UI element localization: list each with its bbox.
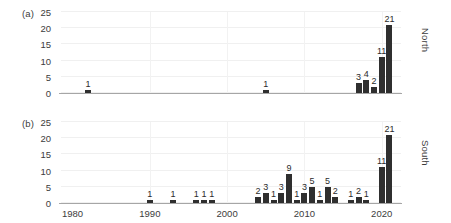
y-axis-tick-label: 25 [33,117,51,128]
gridline-horizontal [61,60,401,61]
bar [294,200,300,203]
gridline-horizontal [61,27,401,28]
panel-b-side-label: South [420,140,431,166]
panel-a-north: (a) 2520151050 113421121 North [0,0,451,112]
gridline-horizontal [61,11,401,12]
bar-value-label: 5 [325,176,330,186]
figure-bar-chart-north-south: (a) 2520151050 113421121 North (b) 25201… [0,0,451,223]
bar [356,197,362,203]
y-axis-tick-label: 20 [33,133,51,144]
gridline-horizontal [61,170,401,171]
bar-value-label: 11 [377,46,386,56]
x-axis-tick-label: 2020 [371,208,392,219]
bar-value-label: 1 [194,189,199,199]
bar [379,167,385,203]
panel-b-y-axis-labels: 2520151050 [33,122,51,203]
bar-value-label: 11 [377,156,386,166]
y-axis-tick-label: 10 [33,165,51,176]
bar-value-label: 1 [147,189,152,199]
y-axis-tick-label: 5 [33,181,51,192]
x-axis-tick-label: 2010 [294,208,315,219]
bar [332,197,338,203]
y-axis-tick-label: 5 [33,71,51,82]
bar-value-label: 2 [371,76,376,86]
bar-value-label: 1 [209,189,214,199]
bar-value-label: 1 [364,189,369,199]
gridline-horizontal [61,186,401,187]
y-axis-tick-label: 25 [33,7,51,18]
bar [363,80,369,93]
bar-value-label: 21 [384,124,394,134]
gridline-horizontal [61,137,401,138]
gridline-horizontal [61,92,401,93]
bar [209,200,215,203]
panel-a-side-label: North [420,28,431,52]
y-axis-tick-label: 0 [33,198,51,209]
bar [309,187,315,203]
bar-value-label: 3 [279,182,284,192]
bar-value-label: 3 [356,72,361,82]
bar [317,200,323,203]
bar [193,200,199,203]
bar-value-label: 1 [171,189,176,199]
y-axis-tick-label: 0 [33,88,51,99]
panel-b-south: (b) 2520151050 11111231391351521211121 1… [0,110,451,223]
panel-a-plot-area: 113421121 [61,12,401,93]
bar-value-label: 5 [310,176,315,186]
bar-value-label: 1 [263,79,268,89]
bar [356,83,362,93]
x-axis-tick-label: 2000 [217,208,238,219]
gridline-vertical [150,12,151,93]
bar [301,193,307,203]
bar-value-label: 1 [317,189,322,199]
bar [348,200,354,203]
bar-value-label: 2 [256,186,261,196]
panel-b-plot-area: 11111231391351521211121 [61,122,401,203]
gridline-vertical [227,122,228,203]
gridline-horizontal [61,43,401,44]
panel-b-x-axis-line [59,203,402,204]
bar-value-label: 2 [356,186,361,196]
bar-value-label: 1 [294,189,299,199]
x-axis-tick-label: 1990 [139,208,160,219]
bar [379,57,385,93]
bar-value-label: 4 [364,69,369,79]
bar [263,193,269,203]
x-axis-tick-label: 1980 [62,208,83,219]
bar [325,187,331,203]
bar [201,200,207,203]
bar-value-label: 1 [86,79,91,89]
bar [278,193,284,203]
bar-value-label: 1 [348,189,353,199]
bar [271,200,277,203]
bar-value-label: 2 [333,186,338,196]
gridline-vertical [227,12,228,93]
bar-value-label: 3 [263,182,268,192]
y-axis-tick-label: 20 [33,23,51,34]
gridline-horizontal [61,76,401,77]
y-axis-tick-label: 15 [33,39,51,50]
bar-value-label: 1 [201,189,206,199]
bar [255,197,261,203]
bar-value-label: 1 [271,189,276,199]
bar [386,135,392,203]
gridline-horizontal [61,153,401,154]
gridline-horizontal [61,121,401,122]
bar [170,200,176,203]
bar [85,90,91,93]
panel-a-x-axis-line [59,93,402,94]
bar-value-label: 21 [384,14,394,24]
y-axis-tick-label: 10 [33,55,51,66]
bar [371,87,377,93]
bar [286,174,292,203]
panel-a-y-axis-labels: 2520151050 [33,12,51,93]
panel-b-x-axis-labels: 19801990200020102020 [61,206,401,222]
gridline-vertical [304,12,305,93]
bar [263,90,269,93]
y-axis-tick-label: 15 [33,149,51,160]
bar [386,25,392,93]
bar [363,200,369,203]
bar-value-label: 3 [302,182,307,192]
bar [147,200,153,203]
bar-value-label: 9 [286,163,291,173]
